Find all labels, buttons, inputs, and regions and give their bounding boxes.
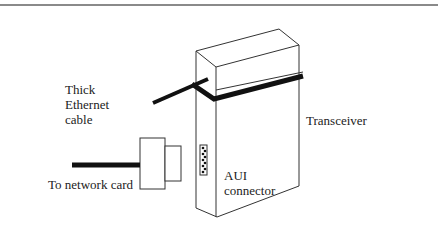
- label-line: Thick: [65, 82, 135, 97]
- label-line: Ethernet: [65, 97, 135, 112]
- aui-connector-port: [200, 145, 207, 175]
- label-line: connector: [224, 183, 275, 198]
- label-aui-connector: AUI connector: [224, 168, 275, 198]
- network-card-connector: [140, 138, 181, 189]
- label-line: AUI: [224, 168, 275, 183]
- thick-ethernet-cable: [153, 76, 303, 103]
- label-thick-ethernet-cable: Thick Ethernet cable: [65, 82, 135, 127]
- label-line: cable: [65, 112, 135, 127]
- label-to-network-card: To network card: [48, 177, 133, 192]
- label-transceiver: Transceiver: [306, 113, 367, 128]
